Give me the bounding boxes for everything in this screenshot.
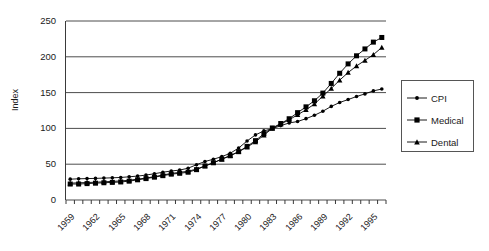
legend-label: CPI [428,93,447,104]
chart-legend: CPIMedicalDental [401,80,474,152]
x-tick-label: 1968 [124,211,152,239]
x-tick-label: 1980 [225,211,253,239]
x-tick-label: 1995 [352,211,380,239]
x-tick-label: 1965 [99,211,127,239]
x-tick-label: 1989 [301,211,329,239]
legend-item-cpi[interactable]: CPI [402,87,473,109]
legend-marker-icon [406,114,428,126]
legend-item-medical[interactable]: Medical [402,109,473,131]
x-tick-label: 1974 [175,211,203,239]
line-chart: Index 250200150100500 195919621965196819… [0,0,489,251]
legend-marker-icon [406,92,428,104]
x-tick-label: 1986 [276,211,304,239]
legend-label: Dental [428,137,458,148]
x-tick-label: 1983 [251,211,279,239]
x-tick-label: 1977 [200,211,228,239]
x-tick-label: 1971 [150,211,178,239]
x-tick-label: 1962 [74,211,102,239]
legend-marker-icon [406,136,428,148]
x-tick-label: 1992 [326,211,354,239]
x-tick-label: 1959 [48,211,76,239]
legend-label: Medical [428,115,464,126]
legend-item-dental[interactable]: Dental [402,131,473,153]
